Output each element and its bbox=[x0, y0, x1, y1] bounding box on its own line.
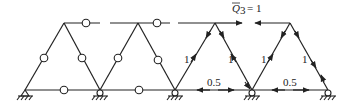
member-label: 1 bbox=[184, 53, 190, 65]
member-label: 1 bbox=[228, 53, 234, 65]
hinge bbox=[60, 86, 68, 94]
roller-support-icon bbox=[167, 90, 183, 100]
force-arrow bbox=[268, 54, 273, 62]
roller-support-icon bbox=[320, 90, 336, 100]
force-arrow bbox=[191, 54, 196, 62]
force-arrow bbox=[311, 60, 316, 68]
member-label: 1 bbox=[302, 53, 308, 65]
hinge bbox=[40, 54, 48, 62]
hinge bbox=[135, 86, 143, 94]
svg-text:3: 3 bbox=[240, 4, 246, 16]
member-label: 0.5 bbox=[207, 76, 221, 88]
roller-support-icon bbox=[244, 90, 260, 100]
svg-text:Q: Q bbox=[232, 2, 240, 14]
pin-support-icon bbox=[17, 90, 33, 100]
member-label: 1 bbox=[261, 53, 267, 65]
svg-text:= 1: = 1 bbox=[247, 2, 261, 14]
truss-diagram: Q 3 = 1 1 1 1 1 0.5 0.5 bbox=[0, 0, 350, 111]
load-label: Q 3 = 1 bbox=[232, 2, 261, 16]
member-label: 0.5 bbox=[283, 76, 297, 88]
hinge bbox=[78, 54, 86, 62]
roller-support-icon bbox=[92, 90, 108, 100]
force-arrow bbox=[206, 31, 210, 38]
hinge bbox=[114, 54, 122, 62]
force-arrow bbox=[281, 31, 285, 38]
hinge bbox=[154, 56, 162, 64]
force-arrow bbox=[295, 31, 299, 38]
hinge bbox=[82, 19, 90, 27]
hinge bbox=[153, 19, 161, 27]
force-arrow bbox=[220, 31, 224, 38]
